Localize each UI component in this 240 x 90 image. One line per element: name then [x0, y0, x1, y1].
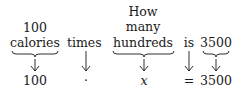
brace-hundreds — [113, 51, 174, 57]
brace-3500 — [203, 51, 229, 57]
math-3500: 3500 — [200, 74, 232, 87]
math-x: x — [136, 74, 152, 87]
brace-calories — [12, 51, 58, 57]
math-100: 100 — [20, 74, 50, 87]
math-equals: = — [181, 74, 197, 87]
math-times-dot: · — [78, 74, 94, 87]
